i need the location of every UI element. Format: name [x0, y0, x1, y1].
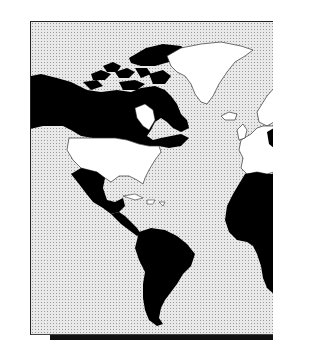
central-america: [111, 212, 141, 236]
africa: [225, 172, 273, 294]
south-america: [135, 228, 195, 326]
world-map: [31, 22, 273, 335]
greenland: [167, 42, 253, 104]
map-frame: [30, 21, 273, 335]
caribbean-islands: [123, 194, 165, 206]
canada-alaska: [31, 74, 189, 148]
scandinavia: [257, 88, 273, 126]
iceland: [221, 112, 237, 120]
map-frame-shadow: [50, 335, 273, 340]
